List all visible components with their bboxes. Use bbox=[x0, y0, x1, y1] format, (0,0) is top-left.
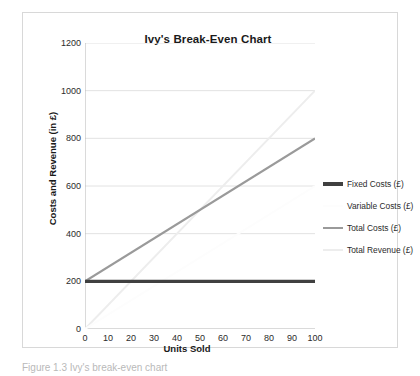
figure-caption: Figure 1.3 Ivy's break-even chart bbox=[22, 362, 167, 373]
x-tick-label: 90 bbox=[287, 333, 297, 343]
x-tick-label: 0 bbox=[82, 333, 87, 343]
legend-swatch-icon bbox=[323, 249, 343, 251]
x-tick-label: 30 bbox=[149, 333, 159, 343]
x-tick-label: 50 bbox=[195, 333, 205, 343]
y-tick-label: 1200 bbox=[61, 38, 81, 48]
y-tick-label: 800 bbox=[66, 133, 81, 143]
y-tick-label: 600 bbox=[66, 181, 81, 191]
legend-item-label: Fixed Costs (£) bbox=[347, 179, 404, 189]
legend-swatch-icon bbox=[323, 227, 343, 229]
y-tick-label: 200 bbox=[66, 276, 81, 286]
chart-figure-frame: Ivy's Break-Even Chart Costs and Revenue… bbox=[22, 12, 398, 348]
legend-item[interactable]: Total Revenue (£) bbox=[323, 239, 420, 261]
x-tick-label: 100 bbox=[307, 333, 322, 343]
y-tick-label: 400 bbox=[66, 229, 81, 239]
legend-swatch-icon bbox=[323, 205, 343, 207]
y-tick-label: 1000 bbox=[61, 86, 81, 96]
x-tick-label: 10 bbox=[103, 333, 113, 343]
y-tick-label: 0 bbox=[76, 324, 81, 334]
x-axis-title: Units Sold bbox=[57, 343, 317, 354]
plot-svg bbox=[85, 43, 315, 329]
legend-item-label: Total Revenue (£) bbox=[347, 245, 413, 255]
x-tick-label: 70 bbox=[241, 333, 251, 343]
legend-item[interactable]: Total Costs (£) bbox=[323, 217, 420, 239]
chart-legend: Fixed Costs (£)Variable Costs (£)Total C… bbox=[323, 173, 420, 261]
x-tick-label: 80 bbox=[264, 333, 274, 343]
legend-item[interactable]: Fixed Costs (£) bbox=[323, 173, 420, 195]
legend-item-label: Total Costs (£) bbox=[347, 223, 401, 233]
x-tick-label: 40 bbox=[172, 333, 182, 343]
x-tick-label: 60 bbox=[218, 333, 228, 343]
legend-swatch-icon bbox=[323, 182, 343, 185]
x-tick-label: 20 bbox=[126, 333, 136, 343]
series-line-variable-costs bbox=[85, 186, 315, 329]
legend-item-label: Variable Costs (£) bbox=[347, 201, 413, 211]
y-axis-title: Costs and Revenue (in £) bbox=[47, 84, 58, 254]
legend-item[interactable]: Variable Costs (£) bbox=[323, 195, 420, 217]
series-line-total-costs bbox=[85, 138, 315, 281]
plot-area: 0200400600800100012000102030405060708090… bbox=[85, 43, 315, 329]
